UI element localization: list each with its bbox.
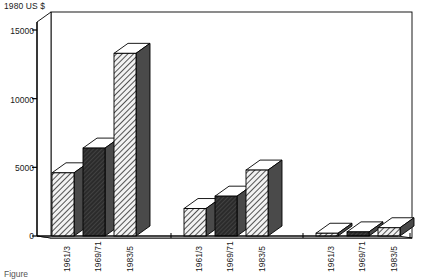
bar-g2-1969-71-front bbox=[215, 196, 237, 236]
bar-g1-1961-3-front bbox=[52, 173, 74, 236]
bar-g2-1983-5-side bbox=[268, 160, 282, 236]
bar-g3-1969-71-front bbox=[347, 232, 369, 236]
bar-g1-1969-71-front bbox=[83, 148, 105, 236]
bar-g2-1983-5-front bbox=[246, 170, 268, 236]
bar-g3-1983-5-front bbox=[378, 228, 400, 236]
bar-g1-1983-5-front bbox=[114, 53, 136, 236]
bar-g1-1983-5-side bbox=[136, 43, 150, 236]
chart-geometry bbox=[32, 12, 414, 238]
plot-left-wall bbox=[37, 12, 51, 238]
bar-g2-1961-3-front bbox=[184, 209, 206, 236]
